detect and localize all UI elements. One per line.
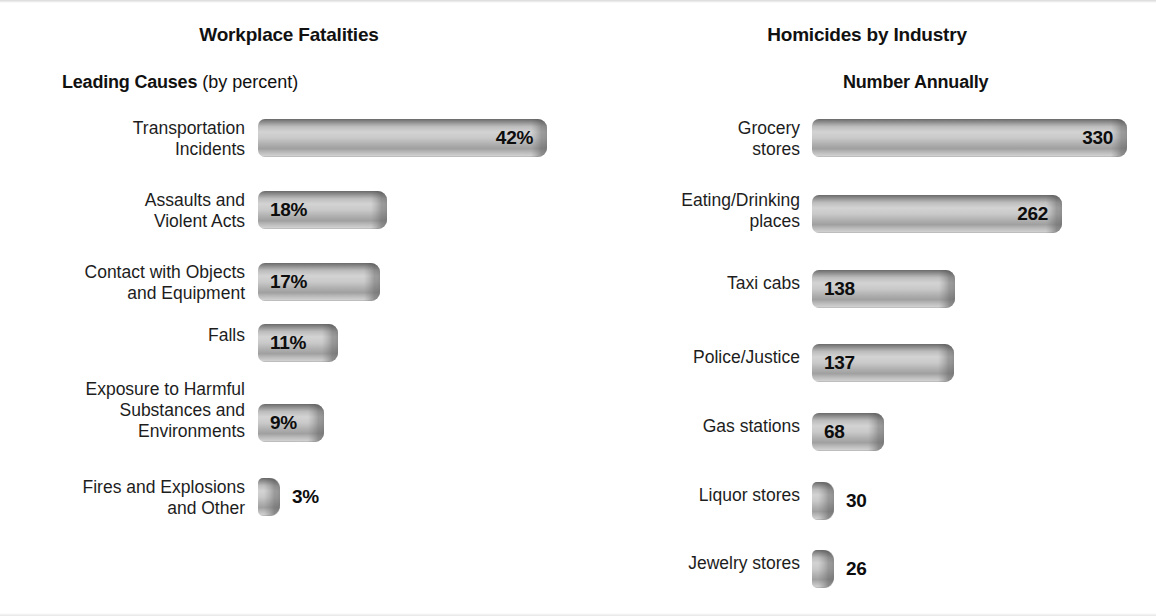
bar-liquor-stores: 30 <box>812 482 834 520</box>
bar-value-label: 17% <box>270 263 307 301</box>
bar-jewelry-stores: 26 <box>812 550 834 588</box>
bar-value-label: 137 <box>824 344 855 382</box>
bar-row-label: Falls <box>0 325 245 346</box>
bar-row-label: Assaults and Violent Acts <box>0 190 245 232</box>
bar-police-justice: 137 <box>812 344 954 382</box>
bar-eating-drinking-places: 262 <box>812 195 1062 233</box>
bar-rows-right: Grocery stores 330 Eating/Drinking place… <box>578 0 1156 616</box>
bar-falls: 11% <box>258 324 338 362</box>
bar-value-label: 330 <box>1082 119 1113 157</box>
bar-row-label: Transportation Incidents <box>0 118 245 160</box>
bar-row-label: Jewelry stores <box>580 553 800 574</box>
bar-row-label: Liquor stores <box>580 485 800 506</box>
bar-value-label: 9% <box>270 404 297 442</box>
bar-exposure-to-harmful-substances: 9% <box>258 404 324 442</box>
bar-transportation-incidents: 42% <box>258 119 547 157</box>
bar-value-label: 18% <box>270 191 307 229</box>
bar-value-label: 138 <box>824 270 855 308</box>
bar-row-label: Taxi cabs <box>580 273 800 294</box>
bar-grocery-stores: 330 <box>812 119 1127 157</box>
bar-contact-with-objects-and-equipment: 17% <box>258 263 380 301</box>
bar-rows-left: Transportation Incidents 42% Assaults an… <box>0 0 578 616</box>
bar-value-label: 262 <box>1017 195 1048 233</box>
bar-row-label: Police/Justice <box>580 347 800 368</box>
bar-gas-stations: 68 <box>812 413 884 451</box>
bar-value-label: 68 <box>824 413 845 451</box>
bar-assaults-and-violent-acts: 18% <box>258 191 387 229</box>
bar-value-label: 11% <box>270 324 306 362</box>
bar-row-label: Exposure to Harmful Substances and Envir… <box>0 379 245 442</box>
bar-value-label: 42% <box>496 119 533 157</box>
chart-panel-workplace-fatalities: Workplace Fatalities Leading Causes (by … <box>0 0 578 616</box>
bar-row-label: Contact with Objects and Equipment <box>0 262 245 304</box>
bar-value-label: 3% <box>292 478 319 516</box>
bar-row-label: Grocery stores <box>580 118 800 160</box>
chart-panel-homicides-by-industry: Homicides by Industry Number Annually Gr… <box>578 0 1156 616</box>
bar-fires-and-explosions-and-other: 3% <box>258 478 280 516</box>
bar-row-label: Fires and Explosions and Other <box>0 477 245 519</box>
bar-value-label: 30 <box>846 482 867 520</box>
bar-value-label: 26 <box>846 550 867 588</box>
bar-row-label: Gas stations <box>580 416 800 437</box>
bar-taxi-cabs: 138 <box>812 270 955 308</box>
bar-row-label: Eating/Drinking places <box>580 190 800 232</box>
